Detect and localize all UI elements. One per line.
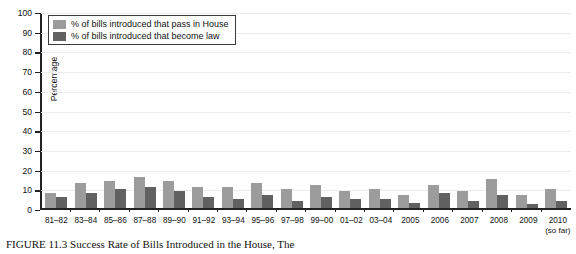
bar [497,195,508,209]
bar [380,199,391,209]
bar [45,193,56,209]
bar [233,199,244,209]
bar-group [483,13,512,208]
bar [56,197,67,209]
y-tick-mark [35,92,40,93]
x-tick-mark [246,208,247,212]
bar [262,195,273,209]
y-tick-mark [35,190,40,191]
x-tick-mark [482,208,483,212]
bar [468,201,479,209]
x-tick-mark [335,208,336,212]
legend-item-pass-house: % of bills introduced that pass in House [53,19,229,29]
x-tick-mark [70,208,71,212]
figure: Percentage 0102030405060708090100 81–828… [0,0,576,254]
bar-group [394,13,423,208]
x-tick-mark [423,208,424,212]
bar [409,203,420,209]
bar [174,191,185,209]
bar-group [453,13,482,208]
x-axis-label: 2007 [455,216,485,236]
y-tick-mark [35,171,40,172]
x-tick-mark [158,208,159,212]
bar [145,187,156,209]
y-tick-label: 20 [22,166,32,176]
x-axis-labels: 81–8283–8485–8687–8889–9091–9293–9495–96… [42,216,573,236]
y-tick-label: 40 [22,126,32,136]
bar [163,181,174,209]
bar [104,181,115,209]
x-axis-label: 95–96 [248,216,278,236]
x-axis-label: 2005 [396,216,426,236]
x-tick-mark [305,208,306,212]
y-tick-label: 80 [22,47,32,57]
bar-group [512,13,541,208]
y-tick-mark [35,210,40,211]
bar [321,197,332,209]
bar [545,189,556,209]
bar [398,195,409,209]
x-axis-label: 2006 [425,216,455,236]
bar [192,187,203,209]
x-axis-label: 93–94 [219,216,249,236]
bar [457,191,468,209]
x-axis-label: 91–92 [189,216,219,236]
bar [134,177,145,209]
y-tick-label: 30 [22,146,32,156]
x-tick-mark [452,208,453,212]
y-tick-label: 90 [22,28,32,38]
y-tick-label: 100 [18,8,32,18]
x-axis-label: 89–90 [160,216,190,236]
x-axis-label: 01–02 [337,216,367,236]
x-tick-mark [393,208,394,212]
bar [556,201,567,209]
y-tick-mark [35,131,40,132]
x-axis-label: 2010(so far) [543,216,573,236]
x-axis-label: 99–00 [307,216,337,236]
x-axis-label: 87–88 [130,216,160,236]
y-tick-label: 60 [22,87,32,97]
y-tick-mark [35,151,40,152]
x-axis-label-note: (so far) [543,226,573,236]
x-tick-mark [129,208,130,212]
bar [339,191,350,209]
bar-group [277,13,306,208]
bar [75,183,86,209]
y-tick-mark [35,112,40,113]
bar [86,193,97,209]
bar [428,185,439,209]
bar [516,195,527,209]
y-tick-label: 50 [22,107,32,117]
bar [251,183,262,209]
y-tick-label: 70 [22,67,32,77]
x-tick-mark [511,208,512,212]
x-tick-mark [217,208,218,212]
bar-group [424,13,453,208]
bar [369,189,380,209]
x-axis-label: 2008 [484,216,514,236]
legend-item-become-law: % of bills introduced that become law [53,31,229,41]
x-axis-label: 97–98 [278,216,308,236]
x-tick-mark [364,208,365,212]
x-tick-mark [188,208,189,212]
bar-group [365,13,394,208]
x-tick-mark [541,208,542,212]
x-axis-label: 81–82 [42,216,72,236]
bar-group [247,13,276,208]
y-tick-mark [35,33,40,34]
x-axis-label: 85–86 [101,216,131,236]
legend-swatch-become-law [53,32,66,41]
bar [115,189,126,209]
y-tick-mark [35,72,40,73]
bar [222,187,233,209]
x-axis-label: 03–04 [366,216,396,236]
bar-group [306,13,335,208]
bar [350,199,361,209]
bar [203,197,214,209]
chart-plot-area: Percentage 0102030405060708090100 81–828… [0,0,576,214]
bar [527,204,538,208]
x-axis-label: 83–84 [71,216,101,236]
bar [486,179,497,209]
bar [439,193,450,209]
x-tick-mark [276,208,277,212]
